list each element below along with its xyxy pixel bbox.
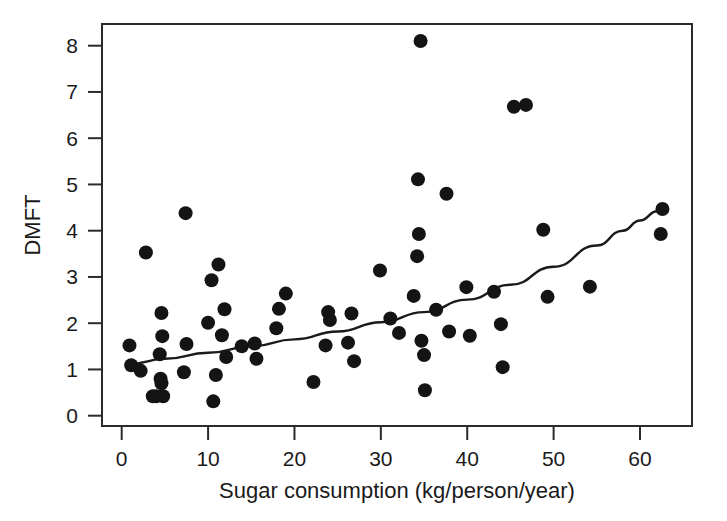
data-point (496, 360, 510, 374)
data-point (655, 202, 669, 216)
data-point (209, 368, 223, 382)
data-point (414, 334, 428, 348)
data-point (341, 336, 355, 350)
data-point (411, 172, 425, 186)
data-point (487, 285, 501, 299)
data-point (459, 280, 473, 294)
data-point (179, 206, 193, 220)
data-point (279, 287, 293, 301)
data-point (429, 303, 443, 317)
data-point (205, 273, 219, 287)
data-point (414, 34, 428, 48)
x-tick-label-20: 20 (283, 447, 306, 470)
data-point (442, 325, 456, 339)
data-point (323, 313, 337, 327)
x-tick-label-30: 30 (369, 447, 392, 470)
y-tick-label-3: 3 (66, 265, 78, 288)
data-point (383, 312, 397, 326)
y-tick-label-2: 2 (66, 312, 78, 335)
data-point (347, 354, 361, 368)
data-point (154, 306, 168, 320)
data-point (344, 306, 358, 320)
data-point (269, 321, 283, 335)
data-point (179, 337, 193, 351)
x-axis-tick-labels: 0102030405060 (116, 447, 652, 470)
x-tick-label-40: 40 (456, 447, 479, 470)
y-tick-label-6: 6 (66, 127, 78, 150)
x-axis-title: Sugar consumption (kg/person/year) (219, 478, 575, 503)
data-point (201, 316, 215, 330)
scatter-plot: 0102030405060 012345678 Sugar consumptio… (0, 0, 727, 521)
data-point (219, 350, 233, 364)
x-axis-ticks (122, 426, 640, 440)
data-point (373, 263, 387, 277)
data-point (319, 338, 333, 352)
data-point (156, 389, 170, 403)
data-point (541, 290, 555, 304)
x-tick-label-10: 10 (196, 447, 219, 470)
data-point (418, 383, 432, 397)
data-point (463, 329, 477, 343)
x-tick-label-60: 60 (628, 447, 651, 470)
data-point (412, 227, 426, 241)
data-point (249, 352, 263, 366)
data-point (235, 339, 249, 353)
figure-canvas: 0102030405060 012345678 Sugar consumptio… (0, 0, 727, 521)
plot-border (102, 24, 692, 426)
data-point (306, 375, 320, 389)
data-point (215, 328, 229, 342)
data-point (407, 289, 421, 303)
data-point (206, 394, 220, 408)
y-axis-title: DMFT (20, 194, 45, 255)
data-point (392, 326, 406, 340)
data-point (417, 348, 431, 362)
data-point (134, 364, 148, 378)
data-point (583, 280, 597, 294)
x-tick-label-0: 0 (116, 447, 128, 470)
data-point (154, 376, 168, 390)
data-point (410, 249, 424, 263)
data-point (536, 223, 550, 237)
y-tick-label-0: 0 (66, 404, 78, 427)
data-point (153, 347, 167, 361)
y-axis-tick-labels: 012345678 (66, 34, 78, 427)
data-point (494, 317, 508, 331)
data-point (519, 98, 533, 112)
y-axis-ticks (88, 46, 102, 416)
data-point (139, 245, 153, 259)
data-point (155, 329, 169, 343)
data-point (654, 227, 668, 241)
data-point (272, 302, 286, 316)
data-point (507, 100, 521, 114)
data-point (177, 365, 191, 379)
y-tick-label-8: 8 (66, 34, 78, 57)
y-tick-label-5: 5 (66, 173, 78, 196)
data-point (248, 337, 262, 351)
y-tick-label-1: 1 (66, 358, 78, 381)
data-point (440, 187, 454, 201)
data-point (211, 257, 225, 271)
x-tick-label-50: 50 (542, 447, 565, 470)
y-tick-label-4: 4 (66, 219, 78, 242)
data-point (218, 302, 232, 316)
y-tick-label-7: 7 (66, 80, 78, 103)
data-point (122, 338, 136, 352)
